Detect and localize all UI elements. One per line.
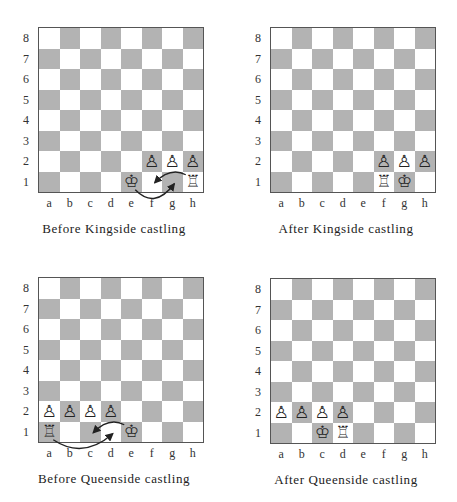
square-b1: [292, 423, 313, 444]
square-e4: [121, 110, 142, 131]
file-label: c: [312, 447, 333, 462]
square-a7: [39, 49, 60, 70]
square-g4: [394, 361, 415, 382]
square-f4: [142, 360, 163, 381]
rank-label: 8: [252, 31, 264, 46]
file-label: h: [183, 196, 204, 211]
square-f5: [142, 340, 163, 361]
white-rook-icon: ♖: [42, 423, 57, 440]
square-e1: [353, 172, 374, 193]
square-f6: [142, 69, 163, 90]
square-c5: [312, 90, 333, 111]
square-e5: [121, 90, 142, 111]
white-king-icon: ♔: [315, 424, 330, 441]
file-label: h: [415, 196, 436, 211]
file-label: e: [353, 447, 374, 462]
square-d2: [333, 151, 354, 172]
square-b8: [60, 28, 81, 49]
square-b5: [292, 90, 313, 111]
square-a4: [271, 110, 292, 131]
file-label: g: [394, 196, 415, 211]
file-label: c: [80, 196, 101, 211]
rank-label: 3: [20, 134, 32, 149]
square-f8: [374, 28, 395, 49]
square-g8: [394, 279, 415, 300]
square-h5: [415, 341, 436, 362]
file-label: c: [80, 446, 101, 461]
square-e2: [353, 402, 374, 423]
square-c2: [80, 151, 101, 172]
square-c7: [312, 300, 333, 321]
square-e6: [353, 320, 374, 341]
square-a4: [39, 110, 60, 131]
rank-label: 1: [252, 426, 264, 441]
square-f7: [374, 49, 395, 70]
square-d5: [101, 340, 122, 361]
square-a2: ♙: [271, 402, 292, 423]
square-f7: [374, 300, 395, 321]
square-b7: [292, 49, 313, 70]
square-e8: [121, 278, 142, 299]
square-d8: [333, 279, 354, 300]
square-d8: [101, 278, 122, 299]
square-f2: [142, 401, 163, 422]
square-c2: ♙: [80, 401, 101, 422]
square-c2: [312, 151, 333, 172]
rank-label: 7: [20, 52, 32, 67]
square-d1: [333, 172, 354, 193]
square-g7: [394, 300, 415, 321]
file-label: a: [39, 446, 60, 461]
square-a2: [271, 151, 292, 172]
square-f3: [374, 131, 395, 152]
square-d1: [101, 422, 122, 443]
white-king-icon: ♔: [124, 423, 139, 440]
chess-board: ♙♙♙♖♔: [270, 27, 436, 193]
square-e8: [353, 279, 374, 300]
square-c8: [80, 28, 101, 49]
square-h7: [183, 49, 204, 70]
square-c6: [312, 320, 333, 341]
square-h6: [415, 69, 436, 90]
square-b4: [292, 110, 313, 131]
rank-label: 5: [252, 344, 264, 359]
square-b7: [292, 300, 313, 321]
square-g2: ♙: [162, 151, 183, 172]
square-g1: ♔: [394, 172, 415, 193]
square-g8: [162, 278, 183, 299]
file-label: e: [121, 446, 142, 461]
square-d7: [101, 299, 122, 320]
square-d3: [333, 382, 354, 403]
white-king-icon: ♔: [124, 173, 139, 190]
square-c7: [80, 49, 101, 70]
square-f2: ♙: [374, 151, 395, 172]
rank-label: 1: [252, 175, 264, 190]
file-label: g: [162, 196, 183, 211]
square-b4: [60, 110, 81, 131]
white-pawn-icon: ♙: [165, 153, 180, 170]
square-f7: [142, 299, 163, 320]
square-f6: [142, 319, 163, 340]
square-a7: [271, 49, 292, 70]
square-e6: [353, 69, 374, 90]
square-f8: [374, 279, 395, 300]
square-a7: [39, 299, 60, 320]
file-label: e: [353, 196, 374, 211]
diagram-before-queenside: 87654321♙♙♙♙♖♔abcdefghBefore Queenside c…: [0, 250, 228, 500]
square-h8: [183, 28, 204, 49]
square-b8: [60, 278, 81, 299]
square-b6: [292, 320, 313, 341]
square-e4: [353, 361, 374, 382]
chess-board: ♙♙♙♔♖: [38, 27, 204, 193]
file-label: b: [60, 446, 81, 461]
square-e6: [121, 319, 142, 340]
white-pawn-icon: ♙: [417, 153, 432, 170]
square-c5: [312, 341, 333, 362]
square-e1: [353, 423, 374, 444]
square-g5: [162, 90, 183, 111]
square-d3: [101, 131, 122, 152]
square-d4: [101, 360, 122, 381]
square-f7: [142, 49, 163, 70]
square-g1: [162, 172, 183, 193]
square-c7: [312, 49, 333, 70]
square-a5: [271, 90, 292, 111]
